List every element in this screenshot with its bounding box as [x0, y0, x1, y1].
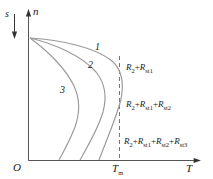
rst3-subscript: st3	[180, 141, 188, 148]
rst1-subscript: st1	[145, 104, 153, 111]
resistance-label-3: R2+Rst1+Rst2+Rst3	[124, 137, 187, 148]
speed-torque-chart	[0, 0, 213, 179]
origin-label: O	[13, 162, 21, 173]
y-axis-label: n	[33, 6, 39, 17]
slip-axis-label: s	[5, 9, 9, 19]
rst2-subscript: st2	[162, 141, 170, 148]
curve-label-3: 3	[60, 85, 65, 95]
curve-3	[30, 38, 79, 160]
resistance-label-1: R2+Rst1	[126, 63, 153, 74]
curve-2	[30, 38, 105, 160]
y-axis	[26, 9, 31, 161]
rst1-subscript: st1	[145, 67, 153, 74]
x-axis-label: T	[186, 163, 192, 174]
resistance-label-2: R2+Rst1+Rst2	[126, 100, 171, 111]
rst2-subscript: st2	[164, 104, 172, 111]
slip-axis-arrow	[12, 14, 17, 39]
figure-container: n s T O Tm 1 2 3 R2+Rst1 R2+Rst1+Rst2 R2…	[0, 0, 213, 179]
rst1-subscript: st1	[143, 141, 151, 148]
curve-label-1: 1	[95, 42, 100, 52]
tm-tick-label: Tm	[112, 163, 123, 177]
curve-label-2: 2	[88, 60, 93, 70]
tm-subscript: m	[118, 169, 123, 176]
